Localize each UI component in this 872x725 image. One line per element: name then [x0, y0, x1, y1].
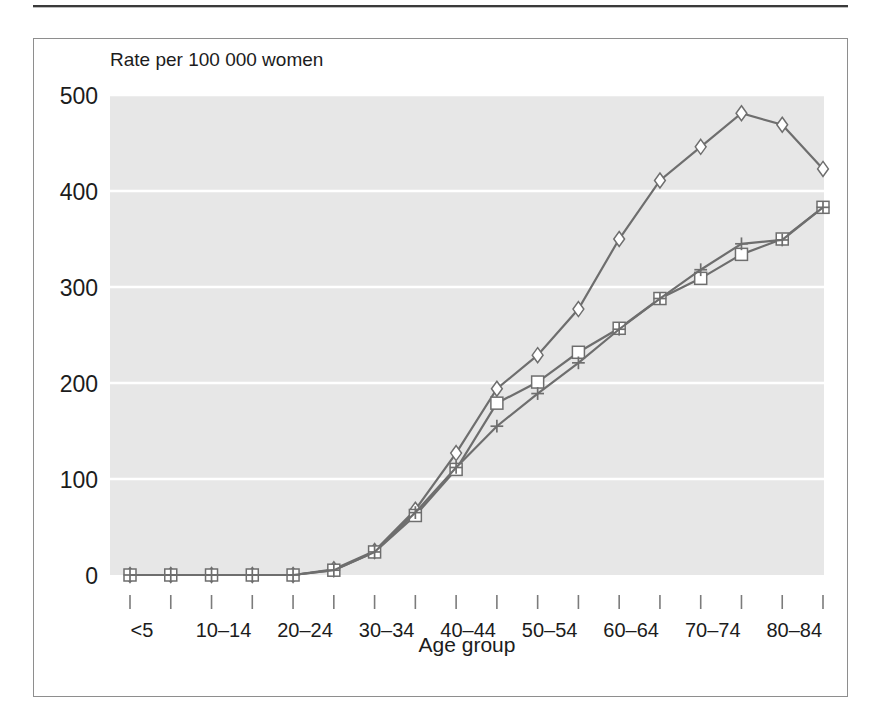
- x-axis-tick-label: <5: [131, 619, 154, 641]
- x-axis-tick-label: 30–34: [359, 619, 415, 641]
- y-axis-tick-label: 400: [60, 179, 98, 205]
- x-axis-tick-label: 20–24: [277, 619, 333, 641]
- x-axis-tick-marks: [130, 595, 823, 609]
- data-point-square: [491, 397, 503, 409]
- y-axis-caption: Rate per 100 000 women: [110, 49, 323, 70]
- x-axis-tick-label: 60–64: [603, 619, 659, 641]
- page-top-rule-shadow: [33, 7, 848, 8]
- x-axis-title: Age group: [419, 633, 516, 656]
- figure-page: Rate per 100 000 women 0100200300400500 …: [0, 0, 872, 725]
- y-axis-tick-label: 100: [60, 467, 98, 493]
- y-axis-tick-labels: 0100200300400500: [60, 83, 98, 589]
- y-axis-tick-label: 0: [85, 563, 98, 589]
- x-axis-tick-label: 80–84: [766, 619, 822, 641]
- y-axis-tick-label: 500: [60, 83, 98, 109]
- data-point-square: [532, 376, 544, 388]
- x-axis-tick-label: 50–54: [522, 619, 578, 641]
- x-axis-tick-label: 10–14: [196, 619, 252, 641]
- plot-area-background: [110, 95, 824, 575]
- y-axis-tick-label: 200: [60, 371, 98, 397]
- y-axis-tick-label: 300: [60, 275, 98, 301]
- line-chart: Rate per 100 000 women 0100200300400500 …: [33, 38, 848, 697]
- x-axis-tick-label: 70–74: [685, 619, 741, 641]
